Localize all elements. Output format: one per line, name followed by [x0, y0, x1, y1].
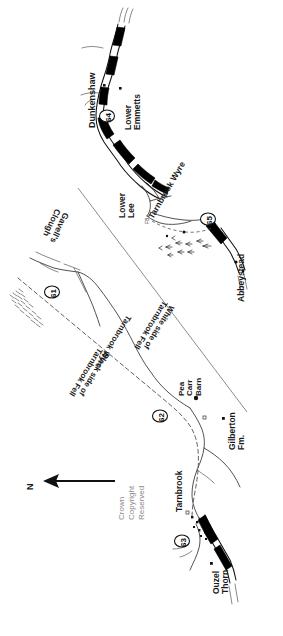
marker-label-61[interactable]: 61 — [49, 289, 58, 298]
map-canvas: .rv{fill:none;stroke:#111;stroke-width:1… — [0, 0, 283, 636]
label-ouzel-thorn: Ouzel Thorn — [212, 570, 230, 594]
river-tarnbrook-wyre — [30, 252, 190, 408]
gilberton-fm-dot — [222, 417, 225, 420]
scree-symbol — [10, 289, 43, 327]
copyright-line-1: Crown — [118, 497, 126, 520]
north-arrow-icon — [33, 470, 118, 492]
gavells-clough-stream — [74, 268, 100, 326]
label-dunkenshaw: Dunkenshaw — [88, 72, 97, 128]
north-arrow-label: N — [26, 484, 35, 491]
pea-carr-barn-dot — [194, 396, 198, 400]
lower-emmetts-dot — [119, 87, 122, 90]
marker-label-63[interactable]: 63 — [179, 538, 188, 547]
label-gilberton-fm: Gilberton Fm. — [228, 412, 246, 450]
ouzel-thorn-dot — [210, 562, 213, 565]
marsh-symbols — [159, 236, 211, 257]
label-tarnbrook: Tarnbrook — [175, 471, 184, 512]
label-footbridge: FB — [145, 218, 150, 224]
marker-label-64[interactable]: 64 — [104, 113, 113, 122]
copyright-line-2: Copyright — [128, 486, 136, 520]
label-lower-lee: Lower Lee — [118, 193, 136, 218]
marker-label-65[interactable]: 65 — [205, 216, 214, 225]
label-pea-carr-barn: Pea Carr Barn — [178, 378, 203, 396]
north-arrow — [33, 470, 118, 492]
dunkenshaw-dot — [103, 84, 106, 87]
label-abbeystead: Abbeystead — [237, 254, 246, 302]
copyright-line-3: Reserved — [138, 486, 146, 520]
marker-label-62[interactable]: 62 — [157, 413, 166, 422]
label-lower-emmetts: Lower Emmetts — [124, 94, 142, 130]
